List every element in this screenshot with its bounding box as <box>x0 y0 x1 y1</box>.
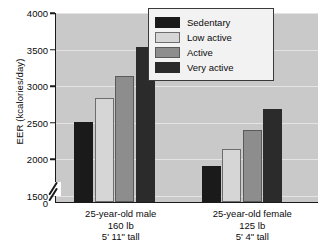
legend-label: Low active <box>187 32 232 43</box>
legend-item: Active <box>155 45 267 59</box>
y-tick-label: 1500 <box>27 190 48 201</box>
y-tick-label: 3500 <box>27 44 48 55</box>
legend-item: Low active <box>155 30 267 44</box>
bar-sedentary <box>202 166 221 202</box>
x-label-line: 125 lb <box>182 220 322 232</box>
y-tick-label: 2000 <box>27 154 48 165</box>
legend-swatch-icon <box>155 17 180 28</box>
legend-label: Very active <box>187 62 233 73</box>
bar-sedentary <box>74 122 93 202</box>
x-label-line: 5' 11" tall <box>51 231 191 243</box>
bar-active <box>243 130 262 202</box>
bar-low-active <box>95 98 114 202</box>
x-label-line: 25-year-old female <box>182 208 322 220</box>
legend-item: Sedentary <box>155 15 267 29</box>
legend-swatch-icon <box>155 32 180 43</box>
bar-low-active <box>222 149 241 202</box>
x-label-line: 25-year-old male <box>51 208 191 220</box>
x-group-label-male: 25-year-old male160 lb5' 11" tall <box>51 208 191 243</box>
y-tick-label: 3000 <box>27 81 48 92</box>
x-label-line: 160 lb <box>51 220 191 232</box>
legend-swatch-icon <box>155 47 180 58</box>
y-tick-label: 2500 <box>27 117 48 128</box>
gridline <box>56 86 318 87</box>
bar-very-active <box>263 109 282 202</box>
legend-swatch-icon <box>155 62 180 73</box>
y-tick-label: 4000 <box>27 8 48 19</box>
y-axis-ticks: 0150020002500300035004000 <box>0 0 55 252</box>
legend-item: Very active <box>155 60 267 74</box>
x-group-label-female: 25-year-old female125 lb5' 4" tall <box>182 208 322 243</box>
x-label-line: 5' 4" tall <box>182 231 322 243</box>
axis-break-icon <box>49 181 65 199</box>
bar-active <box>115 76 134 202</box>
legend-label: Active <box>187 47 213 58</box>
legend: SedentaryLow activeActiveVery active <box>148 8 274 81</box>
eer-bar-chart: EER (kcalories/day) 01500200025003000350… <box>0 0 329 252</box>
legend-label: Sedentary <box>187 17 230 28</box>
